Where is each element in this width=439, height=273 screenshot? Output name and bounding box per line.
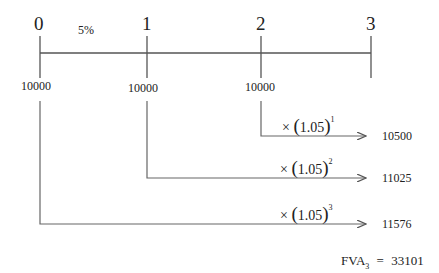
period-label-2: 2 xyxy=(256,14,266,33)
factor-exponent: 2 xyxy=(329,157,333,166)
future-value-3: 11576 xyxy=(382,218,412,230)
compound-arrow-period-1 xyxy=(147,101,366,178)
payment-amount-2: 10000 xyxy=(245,81,275,93)
multiply-sign: × xyxy=(280,162,288,177)
compound-factor-1: × (1.05)1 xyxy=(282,116,335,135)
interest-rate-label: 5% xyxy=(78,24,94,36)
compound-factor-3: × (1.05)3 xyxy=(280,204,333,223)
factor-base: 1.05 xyxy=(298,208,323,223)
multiply-sign: × xyxy=(282,120,290,135)
period-label-1: 1 xyxy=(142,14,152,33)
payment-amount-0: 10000 xyxy=(21,80,51,92)
timeline-diagram xyxy=(0,0,439,273)
fva-value: 33101 xyxy=(391,253,424,268)
fva-total: FVA3 = 33101 xyxy=(341,254,424,271)
factor-base: 1.05 xyxy=(300,120,325,135)
period-label-0: 0 xyxy=(34,14,44,33)
fva-subscript: 3 xyxy=(365,262,369,271)
compound-factor-2: × (1.05)2 xyxy=(280,158,333,177)
payment-amount-1: 10000 xyxy=(128,82,158,94)
factor-exponent: 3 xyxy=(329,203,333,212)
multiply-sign: × xyxy=(280,208,288,223)
equals-sign: = xyxy=(377,253,384,268)
fva-label: FVA xyxy=(341,253,365,268)
future-value-1: 10500 xyxy=(382,130,412,142)
factor-exponent: 1 xyxy=(331,115,335,124)
period-label-3: 3 xyxy=(366,14,376,33)
factor-base: 1.05 xyxy=(298,162,323,177)
future-value-2: 11025 xyxy=(382,172,412,184)
